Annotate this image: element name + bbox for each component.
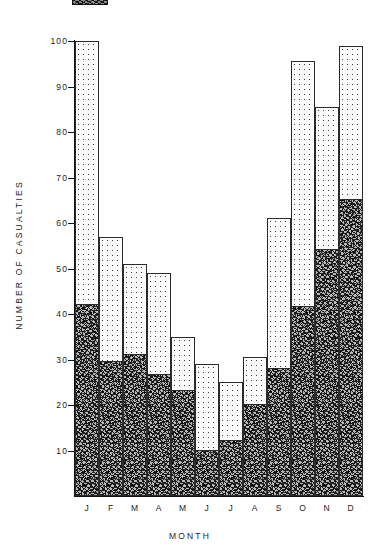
bar-september xyxy=(267,218,291,496)
y-axis-tick-label: 30 xyxy=(38,355,68,365)
y-axis-tick-label: 90 xyxy=(38,82,68,92)
bar-segment-upper xyxy=(292,62,314,308)
bar-may xyxy=(171,337,195,496)
bar-november xyxy=(315,107,339,496)
y-axis-tick-label: 50 xyxy=(38,264,68,274)
bar-segment-lower xyxy=(340,199,362,495)
bar-series-container xyxy=(75,0,363,496)
bar-segment-upper xyxy=(268,219,290,369)
y-axis-title: NUMBER OF CASUALTIES xyxy=(14,140,24,370)
bar-segment-upper xyxy=(220,383,242,442)
y-axis-tick-label: 10 xyxy=(38,446,68,456)
x-axis-title: MONTH xyxy=(0,531,380,541)
bar-segment-upper xyxy=(316,108,338,251)
bar-segment-lower xyxy=(244,404,266,495)
y-axis-tick xyxy=(68,451,74,452)
y-axis-tick xyxy=(68,87,74,88)
y-axis-tick xyxy=(68,405,74,406)
x-axis-tick-label: J xyxy=(195,503,219,513)
bar-segment-lower xyxy=(124,354,146,495)
x-axis-tick-label: D xyxy=(339,503,363,513)
y-axis-tick xyxy=(68,314,74,315)
x-axis-tick-label: A xyxy=(243,503,267,513)
y-axis-tick xyxy=(68,178,74,179)
x-axis-tick-label: M xyxy=(171,503,195,513)
bar-august xyxy=(243,357,267,496)
bar-april xyxy=(147,273,171,496)
y-axis-tick-label: 70 xyxy=(38,173,68,183)
y-axis-tick-labels: 102030405060708090100 xyxy=(28,0,68,559)
bar-segment-lower xyxy=(148,374,170,495)
bar-segment-upper xyxy=(244,358,266,406)
y-axis-tick xyxy=(68,132,74,133)
x-axis-tick-label: M xyxy=(123,503,147,513)
y-axis-tick-label: 60 xyxy=(38,218,68,228)
bar-segment-upper xyxy=(76,42,98,306)
y-axis-tick xyxy=(68,223,74,224)
bar-february xyxy=(99,237,123,496)
bar-segment-upper xyxy=(340,47,362,202)
bar-segment-lower xyxy=(76,304,98,495)
bar-segment-lower xyxy=(196,450,218,496)
y-axis-tick xyxy=(68,269,74,270)
bar-segment-lower xyxy=(268,368,290,495)
x-axis-tick-label: S xyxy=(267,503,291,513)
x-axis-tick-label: J xyxy=(75,503,99,513)
bar-segment-upper xyxy=(172,338,194,393)
x-axis-tick-label: F xyxy=(99,503,123,513)
bar-segment-upper xyxy=(100,238,122,363)
bar-segment-lower xyxy=(100,361,122,495)
x-axis-tick-label: N xyxy=(315,503,339,513)
bar-segment-lower xyxy=(292,306,314,495)
bar-january xyxy=(75,41,99,496)
y-axis-tick-label: 20 xyxy=(38,400,68,410)
y-axis-tick-label: 40 xyxy=(38,309,68,319)
bar-chart-figure: 102030405060708090100 NUMBER OF CASUALTI… xyxy=(0,0,380,559)
bar-segment-lower xyxy=(316,249,338,495)
x-axis-line xyxy=(74,496,364,497)
bar-july xyxy=(219,382,243,496)
bar-segment-upper xyxy=(196,365,218,451)
bar-march xyxy=(123,264,147,496)
y-axis-tick xyxy=(68,41,74,42)
x-axis-tick-label: J xyxy=(219,503,243,513)
x-axis-tick-labels: JFMAMJJASOND xyxy=(75,503,363,519)
x-axis-tick-label: O xyxy=(291,503,315,513)
bar-december xyxy=(339,46,363,496)
bar-june xyxy=(195,364,219,496)
bar-october xyxy=(291,61,315,496)
x-axis-tick-label: A xyxy=(147,503,171,513)
bar-segment-upper xyxy=(124,265,146,356)
bar-segment-upper xyxy=(148,274,170,376)
y-axis-tick-label: 100 xyxy=(38,36,68,46)
y-axis-tick xyxy=(68,360,74,361)
bar-segment-lower xyxy=(172,390,194,495)
y-axis-tick-label: 80 xyxy=(38,127,68,137)
bar-segment-lower xyxy=(220,440,242,495)
